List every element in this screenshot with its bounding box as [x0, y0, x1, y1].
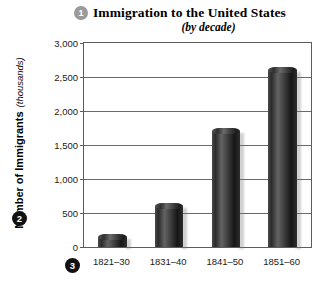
callout-marker-2: 2	[12, 211, 27, 226]
bar	[212, 131, 240, 247]
y-axis-units: (thousands)	[14, 57, 25, 107]
bar-cap	[98, 234, 126, 240]
x-axis-label: 1821–30	[93, 256, 130, 267]
y-axis-tick-mark	[80, 247, 84, 248]
bars-layer	[84, 43, 311, 247]
plot-area: 05001,0001,5002,0002,5003,000	[83, 42, 312, 248]
callout-marker-3: 3	[65, 258, 80, 273]
bar-slot	[141, 43, 198, 247]
chart-title: Immigration to the United States	[93, 5, 286, 21]
x-axis-labels: 1821–301831–401841–501851–60	[83, 256, 312, 272]
immigration-bar-chart: 1 Immigration to the United States (by d…	[0, 0, 331, 290]
bar-slot	[84, 43, 141, 247]
bar	[268, 70, 296, 247]
bar	[98, 237, 126, 247]
y-axis-tick-label: 1,500	[40, 140, 78, 151]
callout-marker-1: 1	[74, 6, 88, 20]
x-axis-label: 1851–60	[263, 256, 300, 267]
bar-cap	[268, 67, 296, 73]
chart-title-row: 1 Immigration to the United States	[74, 4, 324, 21]
y-axis-tick-label: 0	[40, 242, 78, 253]
y-axis-tick-label: 2,500	[40, 72, 78, 83]
y-axis-tick-label: 1,000	[40, 174, 78, 185]
y-axis-title-wrap: Number of Immigrants (thousands)	[8, 60, 30, 225]
y-axis-tick-label: 2,000	[40, 106, 78, 117]
chart-subtitle: (by decade)	[93, 21, 324, 33]
bar-cap	[155, 203, 183, 209]
x-axis-label: 1831–40	[150, 256, 187, 267]
y-axis-tick-label: 500	[40, 208, 78, 219]
x-axis-label: 1841–50	[206, 256, 243, 267]
bar-slot	[198, 43, 255, 247]
bar-slot	[254, 43, 311, 247]
y-axis-tick-label: 3,000	[40, 38, 78, 49]
bar-cap	[212, 128, 240, 134]
bar	[155, 206, 183, 247]
